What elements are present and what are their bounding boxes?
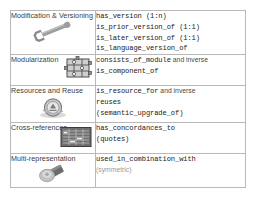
category-cell-crossrefs: Cross-references [11, 123, 96, 154]
relation-line: is_language_version_of [96, 43, 245, 54]
relation-line: is_later_version_of (1:1) [96, 33, 245, 44]
relations-cell-modification: has_version (1:n) is_prior_version_of (1… [96, 11, 246, 55]
relation-line: reuses [96, 97, 245, 108]
category-label: Multi-representation [11, 154, 95, 163]
relations-cell-multirep: used_in_combination_with (symmetric) [96, 154, 246, 188]
relations-cell-resources: is_resource_for and inverse reuses (sema… [96, 86, 246, 123]
relations-cell-modularization: consists_of_module and inverse is_compon… [96, 55, 246, 86]
recycle-coin-icon [11, 96, 95, 120]
relation-line: is_resource_for and inverse [96, 86, 245, 97]
relation-line: consists_of_module and inverse [96, 55, 245, 66]
table-row: Modularization [11, 55, 246, 86]
wrench-icon [11, 20, 95, 42]
relation-line: is_component_of [96, 66, 245, 77]
relations-table: Modification & Versioning has_version [10, 10, 246, 188]
stacked-objects-icon [11, 164, 95, 184]
relation-line: used_in_combination_with [96, 154, 245, 165]
table-row: Cross-references has_concordan [11, 123, 246, 154]
relation-line: has_version (1:n) [96, 11, 245, 22]
relation-line: (symmetric) [96, 165, 245, 175]
relation-line: is_prior_version_of (1:1) [96, 22, 245, 33]
category-label: Resources and Reuse [11, 86, 95, 95]
category-cell-modularization: Modularization [11, 55, 96, 86]
table-row: Multi-representation used_in_combination… [11, 154, 246, 188]
relation-line: (semantic_upgrade_of) [96, 108, 245, 119]
category-cell-resources: Resources and Reuse [11, 86, 96, 123]
relation-line: (quotes) [96, 134, 245, 145]
category-cell-multirep: Multi-representation [11, 154, 96, 188]
relation-line: has_concordances_to [96, 123, 245, 134]
relations-cell-crossrefs: has_concordances_to (quotes) [96, 123, 246, 154]
category-label: Modification & Versioning [11, 11, 95, 20]
category-cell-modification: Modification & Versioning [11, 11, 96, 55]
table-row: Resources and Reuse is_resource_for and [11, 86, 246, 123]
table-row: Modification & Versioning has_version [11, 11, 246, 55]
